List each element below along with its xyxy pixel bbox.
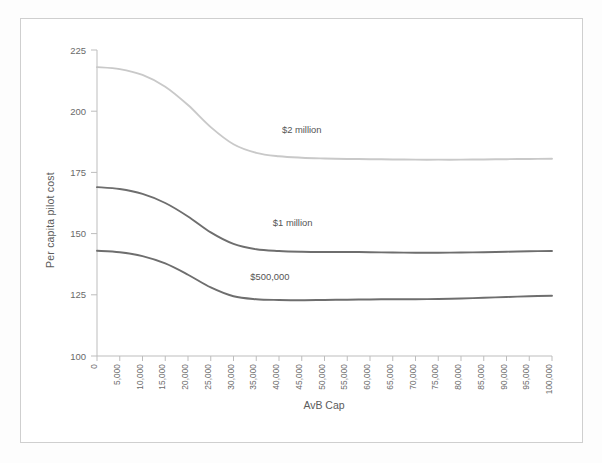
- series-label-0: $2 million: [282, 124, 322, 135]
- x-tick-label: 20,000: [180, 364, 190, 390]
- x-tick-label: 40,000: [271, 364, 281, 390]
- y-tick-label: 150: [70, 228, 86, 239]
- x-tick-label: 65,000: [385, 364, 395, 390]
- x-tick-label: 95,000: [521, 364, 531, 390]
- x-tick-label: 90,000: [499, 364, 509, 390]
- x-tick-label: 0: [89, 364, 99, 369]
- y-tick-label: 125: [70, 289, 86, 300]
- x-tick-label: 30,000: [226, 364, 236, 390]
- x-axis-title: AvB Cap: [303, 399, 344, 411]
- x-tick-label: 75,000: [430, 364, 440, 390]
- x-tick-label: 55,000: [339, 364, 349, 390]
- x-tick-label: 85,000: [476, 364, 486, 390]
- y-tick-label: 200: [70, 106, 86, 117]
- x-tick-label: 25,000: [203, 364, 213, 390]
- y-axis-title: Per capita pilot cost: [44, 172, 56, 268]
- chart-svg: 100125150175200225 05,00010,00015,00020,…: [0, 0, 602, 463]
- y-tick-label: 100: [70, 351, 86, 362]
- line-chart: 100125150175200225 05,00010,00015,00020,…: [0, 0, 602, 463]
- x-tick-label: 5,000: [112, 364, 122, 385]
- x-tick-label: 35,000: [248, 364, 258, 390]
- y-tick-label: 175: [70, 167, 86, 178]
- x-tick-label: 50,000: [317, 364, 327, 390]
- figure-page: 100125150175200225 05,00010,00015,00020,…: [0, 0, 602, 463]
- x-tick-label: 70,000: [408, 364, 418, 390]
- series-label-2: $500,000: [250, 271, 289, 282]
- x-tick-label: 15,000: [157, 364, 167, 390]
- y-axis-ticks: 100125150175200225: [70, 45, 97, 362]
- x-tick-label: 45,000: [294, 364, 304, 390]
- x-tick-label: 80,000: [453, 364, 463, 390]
- x-axis-ticks: 05,00010,00015,00020,00025,00030,00035,0…: [89, 356, 554, 394]
- series-label-1: $1 million: [273, 217, 313, 228]
- y-tick-label: 225: [70, 45, 86, 56]
- x-tick-label: 100,000: [544, 364, 554, 395]
- x-tick-label: 10,000: [135, 364, 145, 390]
- x-tick-label: 60,000: [362, 364, 372, 390]
